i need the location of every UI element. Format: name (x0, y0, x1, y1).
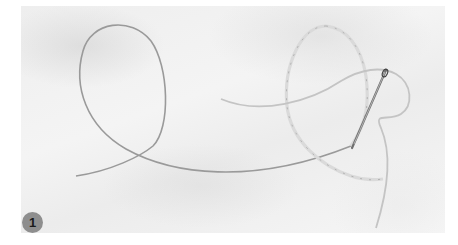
step-number-badge: 1 (22, 212, 43, 233)
left-thread-loop (76, 25, 351, 176)
needle-thread (221, 70, 409, 228)
sewing-photo (21, 6, 445, 233)
thread-illustration (21, 6, 445, 233)
